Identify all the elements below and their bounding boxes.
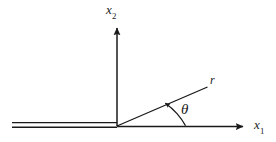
- figure-container: x2 x1 r θ: [0, 0, 276, 142]
- radius-label-r: r: [210, 74, 215, 86]
- axis-label-x1: x1: [254, 118, 264, 134]
- axis-label-x1-base: x: [254, 117, 260, 132]
- axis-label-x2-base: x: [106, 2, 112, 17]
- axis-label-x2-subscript: 2: [112, 11, 116, 21]
- axis-label-x1-subscript: 1: [260, 126, 264, 136]
- angle-label-theta: θ: [181, 102, 188, 117]
- radial-ray-r: [117, 87, 208, 126]
- diagram-canvas: [0, 0, 276, 142]
- axis-label-x2: x2: [106, 3, 116, 19]
- crack-double-line: [12, 123, 117, 128]
